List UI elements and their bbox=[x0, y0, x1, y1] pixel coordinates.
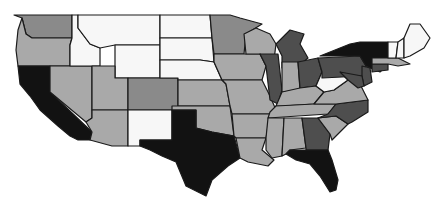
state-shapes bbox=[14, 15, 430, 196]
state-ct bbox=[372, 64, 388, 72]
state-ne bbox=[160, 60, 222, 80]
state-me bbox=[404, 24, 430, 58]
state-mt bbox=[78, 15, 160, 48]
state-ar bbox=[232, 114, 270, 138]
state-nh bbox=[396, 38, 404, 58]
state-ia bbox=[214, 54, 266, 80]
state-wy bbox=[115, 45, 160, 78]
state-fl bbox=[286, 150, 338, 192]
state-nd bbox=[160, 15, 212, 38]
state-ks bbox=[178, 80, 230, 106]
state-ms bbox=[266, 118, 284, 158]
state-sd bbox=[160, 38, 214, 62]
us-choropleth-map bbox=[0, 0, 448, 201]
state-in bbox=[282, 62, 300, 92]
state-co bbox=[128, 78, 178, 110]
state-az bbox=[86, 110, 128, 146]
